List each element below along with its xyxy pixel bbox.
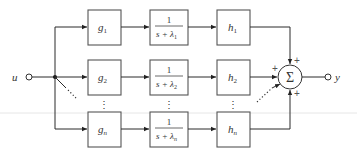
input-terminal bbox=[26, 74, 32, 80]
tf2-denominator: s + λ2 bbox=[156, 79, 177, 90]
output-label: y bbox=[334, 71, 340, 83]
input-label: u bbox=[12, 71, 18, 83]
sign-bottom: + bbox=[294, 88, 300, 99]
tf1-numerator: 1 bbox=[167, 15, 172, 25]
sum-ellipsis-input bbox=[257, 88, 272, 102]
row-2: g2 1 s + λ2 h2 bbox=[88, 60, 277, 95]
tfn-numerator: 1 bbox=[167, 117, 172, 127]
branch-diagonal bbox=[55, 77, 66, 88]
tf-ellipsis: ⋮ bbox=[164, 99, 174, 110]
sigma-symbol: Σ bbox=[286, 70, 294, 85]
sum-diagonal-arrow bbox=[272, 84, 280, 88]
block-diagram: u g1 1 s + λ1 h1 g2 1 s + λ2 h2 ⋮ ⋮ bbox=[0, 0, 357, 156]
tf2-numerator: 1 bbox=[167, 65, 172, 75]
tf1-denominator: s + λ1 bbox=[156, 29, 177, 40]
wire-hn-sum bbox=[250, 90, 290, 129]
h-ellipsis: ⋮ bbox=[228, 99, 238, 110]
output-terminal bbox=[325, 74, 331, 80]
row-n: gn 1 s + λn hn bbox=[88, 90, 290, 147]
wire-h1-sum bbox=[250, 27, 290, 64]
tfn-denominator: s + λn bbox=[156, 131, 177, 142]
g-ellipsis: ⋮ bbox=[99, 99, 109, 110]
branch-ellipsis bbox=[68, 90, 76, 98]
sign-top: + bbox=[294, 55, 300, 66]
row-1: g1 1 s + λ1 h1 bbox=[88, 10, 290, 64]
sign-left: + bbox=[272, 63, 278, 74]
